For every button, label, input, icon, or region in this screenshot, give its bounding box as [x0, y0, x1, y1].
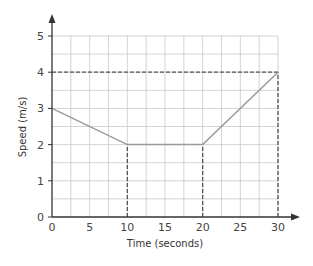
x-axis-label: Time (seconds) — [126, 238, 203, 249]
x-axis-arrow-icon — [291, 214, 300, 221]
y-tick-label: 3 — [37, 102, 44, 115]
y-tick-label: 1 — [37, 175, 44, 188]
x-tick-label: 10 — [120, 221, 134, 234]
x-tick-label: 15 — [158, 221, 172, 234]
x-tick-label: 20 — [196, 221, 210, 234]
x-tick-label: 5 — [86, 221, 93, 234]
y-axis-arrow-icon — [49, 14, 56, 23]
y-tick-label: 5 — [37, 30, 44, 43]
tick-labels: 051015202530012345 — [37, 30, 285, 234]
x-tick-label: 30 — [271, 221, 285, 234]
y-tick-label: 2 — [37, 139, 44, 152]
x-tick-label: 25 — [233, 221, 247, 234]
axes — [49, 14, 301, 221]
y-tick-label: 4 — [37, 66, 44, 79]
speed-time-chart: 051015202530012345 Time (seconds) Speed … — [0, 0, 313, 266]
y-tick-label: 0 — [37, 211, 44, 224]
x-tick-label: 0 — [49, 221, 56, 234]
grid — [52, 36, 278, 217]
y-axis-label: Speed (m/s) — [17, 97, 28, 158]
